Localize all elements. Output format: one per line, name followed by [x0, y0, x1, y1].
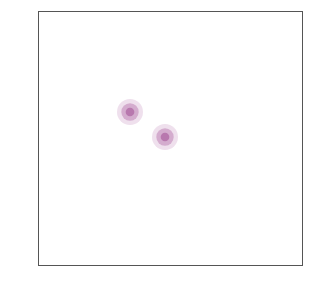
figure-root	[0, 0, 322, 283]
figure-frame-border	[38, 11, 303, 266]
